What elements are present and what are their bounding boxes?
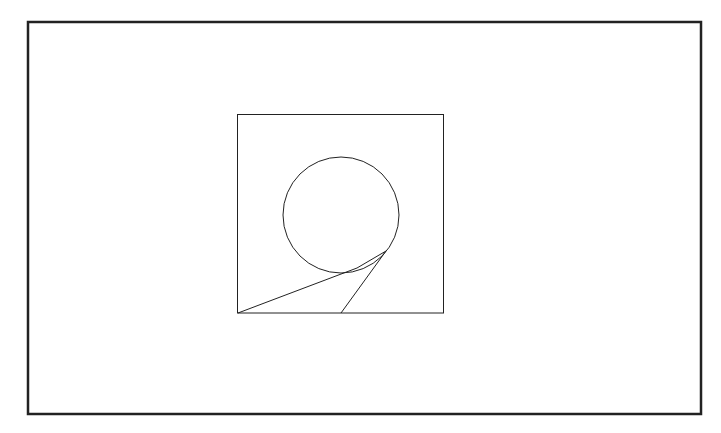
background [0, 0, 721, 433]
diagram-canvas [0, 0, 721, 433]
